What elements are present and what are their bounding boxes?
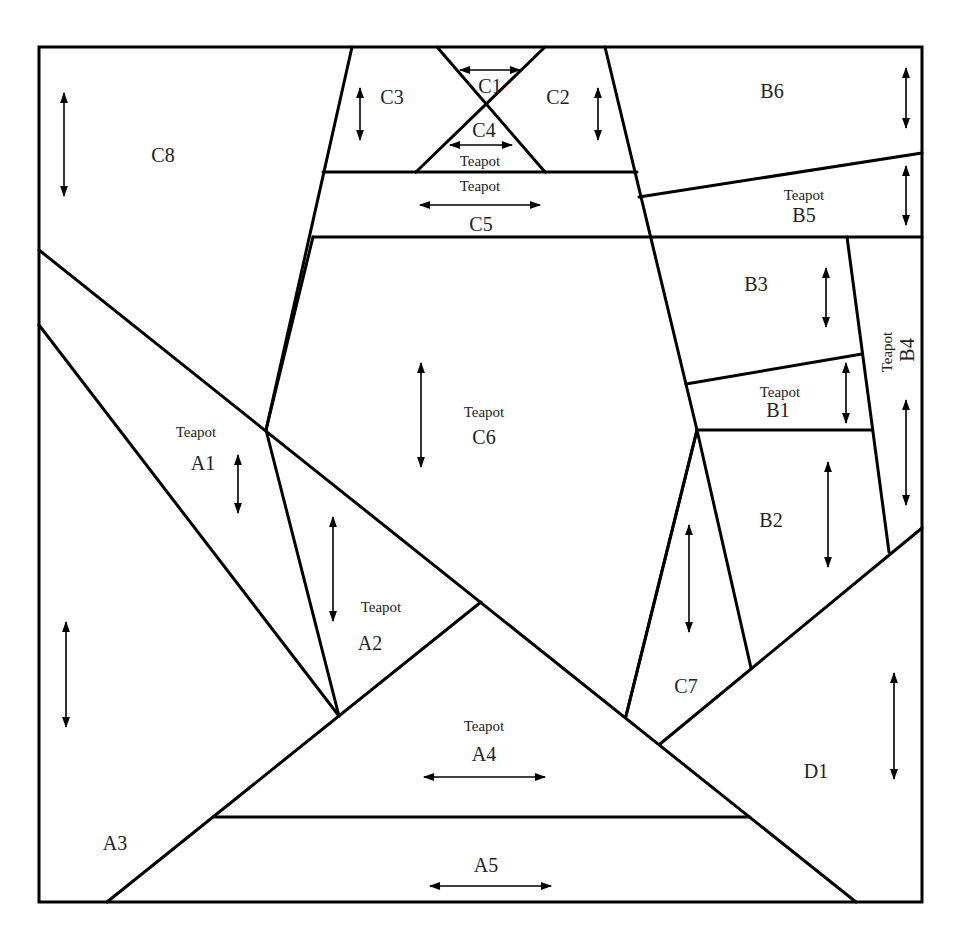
seam-line <box>266 430 339 716</box>
piece-label-a3: A3 <box>103 832 127 854</box>
piece-label-c6: C6 <box>472 426 495 448</box>
teapot-label: Teapot <box>464 404 505 420</box>
piece-label-c7: C7 <box>674 675 697 697</box>
quilt-diagram: C1C2C3C4C5C6TeapotC7C8B1TeapotB2B3B4Teap… <box>0 0 961 942</box>
seam-line <box>697 430 751 668</box>
teapot-label: Teapot <box>464 718 505 734</box>
piece-label-d1: D1 <box>804 760 828 782</box>
teapot-label: Teapot <box>879 331 895 372</box>
seam-line <box>847 237 889 552</box>
seam-line <box>660 528 922 744</box>
teapot-label: Teapot <box>760 384 801 400</box>
seam-line <box>266 237 313 430</box>
piece-label-c5: C5 <box>469 213 492 235</box>
piece-label-c2: C2 <box>546 86 569 108</box>
seam-line <box>39 325 339 716</box>
piece-label-c1: C1 <box>478 75 501 97</box>
teapot-label: Teapot <box>460 153 501 169</box>
diagram-svg: C1C2C3C4C5C6TeapotC7C8B1TeapotB2B3B4Teap… <box>0 0 961 942</box>
piece-label-b3: B3 <box>744 273 767 295</box>
seam-line <box>107 602 481 902</box>
piece-label-b4: B4 <box>896 338 918 361</box>
seam-line <box>639 153 922 197</box>
seam-lines <box>39 47 922 902</box>
piece-label-c4: C4 <box>472 119 495 141</box>
piece-label-a2: A2 <box>358 632 382 654</box>
piece-label-c3: C3 <box>380 86 403 108</box>
teapot-label: Teapot <box>361 599 402 615</box>
teapot-label: Teapot <box>460 178 501 194</box>
piece-label-b1: B1 <box>766 399 789 421</box>
piece-label-b6: B6 <box>760 80 783 102</box>
piece-label-a4: A4 <box>472 743 496 765</box>
piece-label-c8: C8 <box>151 144 174 166</box>
piece-label-a1: A1 <box>191 452 215 474</box>
seam-line <box>626 430 697 716</box>
piece-label-b5: B5 <box>792 204 815 226</box>
piece-label-b2: B2 <box>759 509 782 531</box>
piece-label-a5: A5 <box>474 854 498 876</box>
teapot-label: Teapot <box>784 187 825 203</box>
seam-line <box>686 354 862 384</box>
piece-labels: C1C2C3C4C5C6TeapotC7C8B1TeapotB2B3B4Teap… <box>103 75 918 876</box>
seam-line <box>39 250 856 902</box>
teapot-label: Teapot <box>176 424 217 440</box>
outer-border <box>39 47 922 902</box>
